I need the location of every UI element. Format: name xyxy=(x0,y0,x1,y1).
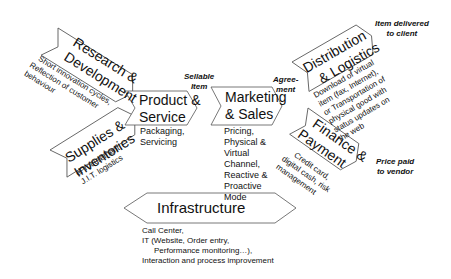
desc-line: Physical & xyxy=(224,137,268,148)
desc-line: Performance monitoring…), xyxy=(142,246,274,256)
flow-label-item-delivered: Item delivered to client xyxy=(375,19,429,39)
infrastructure-title: Infrastructure xyxy=(157,199,245,216)
desc-line: Packaging, xyxy=(140,126,185,137)
desc-line: Reactive & xyxy=(224,170,268,181)
flow-line: Agree- xyxy=(273,75,298,85)
flow-label-price-paid: Price paid to vendor xyxy=(376,157,414,177)
infrastructure-desc: Call Center, IT (Website, Order entry, P… xyxy=(142,226,274,266)
desc-line: Servicing xyxy=(140,137,185,148)
flow-line: ment xyxy=(273,85,298,95)
desc-line: Proactive xyxy=(224,181,268,192)
desc-line: Virtual xyxy=(224,148,268,159)
title-line: Service xyxy=(139,109,200,126)
desc-line: Call Center, xyxy=(142,226,274,236)
flow-line: to client xyxy=(375,29,429,39)
flow-line: Item xyxy=(184,82,214,92)
flow-label-sellable-item: Sellable Item xyxy=(184,72,214,92)
marketing-sales-desc: Pricing, Physical & Virtual Channel, Rea… xyxy=(224,126,268,203)
title-line: & Sales xyxy=(225,106,286,123)
flow-label-agreement: Agree- ment xyxy=(273,75,298,95)
product-service-desc: Packaging, Servicing xyxy=(140,126,185,148)
desc-line: IT (Website, Order entry, xyxy=(142,236,274,246)
flow-line: Sellable xyxy=(184,72,214,82)
flow-line: Item delivered xyxy=(375,19,429,29)
desc-line: Interaction and process improvement xyxy=(142,256,274,266)
title-line: Product & xyxy=(139,92,200,109)
product-service-title: Product & Service xyxy=(139,92,200,126)
flow-line: Price paid xyxy=(376,157,414,167)
title-line: Infrastructure xyxy=(157,199,245,216)
flow-line: to vendor xyxy=(376,167,414,177)
desc-line: Pricing, xyxy=(224,126,268,137)
desc-line: Channel, xyxy=(224,159,268,170)
